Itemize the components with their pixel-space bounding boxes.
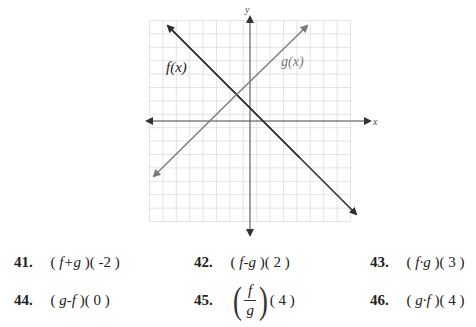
exercise-44: 44. ( g-f )( 0 ) (14, 292, 110, 309)
x-axis-label: x (372, 116, 378, 127)
g-line (154, 101, 230, 176)
exercise-expression: ( f·g )( 3 ) (407, 254, 465, 270)
exercise-42: 42. ( f-g )( 2 ) (194, 254, 290, 271)
exercise-expression: ( f+g )( -2 ) (51, 254, 120, 270)
exercise-45: 45. ( fg ) ( 4 ) (194, 281, 295, 319)
exercise-number: 43. (370, 254, 389, 270)
exercise-number: 42. (194, 254, 213, 270)
y-axis-label: y (244, 4, 250, 15)
exercise-number: 41. (14, 254, 33, 270)
exercise-expression: ( g·f )( 4 ) (407, 292, 465, 308)
f-label: f(x) (166, 59, 187, 76)
exercise-41: 41. ( f+g )( -2 ) (14, 254, 120, 271)
g-label: g(x) (281, 54, 304, 70)
function-graph: x y f(x) g(x) (0, 0, 476, 240)
exercise-46: 46. ( g·f )( 4 ) (370, 292, 464, 309)
exercise-43: 43. ( f·g )( 3 ) (370, 254, 464, 271)
exercise-number: 45. (194, 292, 213, 308)
exercise-number: 46. (370, 292, 389, 308)
exercise-number: 44. (14, 292, 33, 308)
f-line (168, 26, 300, 158)
exercise-expression: ( g-f )( 0 ) (51, 292, 110, 308)
exercise-expression: ( fg ) ( 4 ) (231, 281, 295, 319)
exercise-expression: ( f-g )( 2 ) (231, 254, 290, 270)
